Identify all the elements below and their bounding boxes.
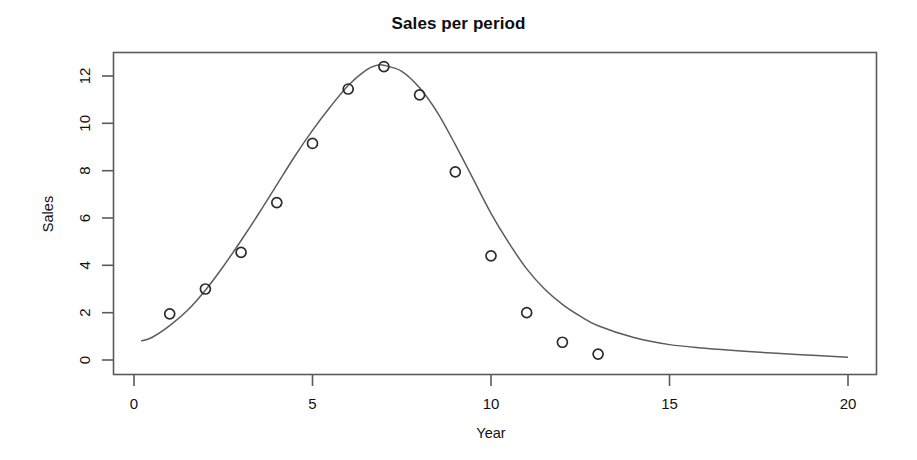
y-tick-label: 0 — [76, 356, 93, 364]
fitted-curve-line — [141, 65, 848, 357]
x-tick-label: 20 — [840, 395, 857, 412]
y-axis-ticks — [102, 76, 113, 360]
scatter-point — [486, 251, 496, 261]
chart-figure: Sales per period 0 5 10 15 20 — [0, 0, 917, 460]
scatter-point — [165, 309, 175, 319]
x-tick-label: 5 — [308, 395, 316, 412]
scatter-point — [593, 349, 603, 359]
x-tick-label: 0 — [130, 395, 138, 412]
x-axis-title: Year — [476, 425, 505, 441]
scatter-point — [272, 198, 282, 208]
plot-frame — [114, 53, 877, 375]
y-axis-tick-labels: 0 2 4 6 8 10 12 — [76, 68, 93, 365]
scatter-point — [450, 167, 460, 177]
y-tick-label: 4 — [76, 261, 93, 269]
y-tick-label: 12 — [76, 68, 93, 85]
y-tick-label: 10 — [76, 115, 93, 132]
scatter-point — [308, 138, 318, 148]
y-tick-label: 6 — [76, 214, 93, 222]
plot-area: 0 5 10 15 20 0 2 4 6 8 10 12 Year — [0, 0, 917, 460]
scatter-point — [415, 90, 425, 100]
y-tick-label: 8 — [76, 167, 93, 175]
x-axis-ticks — [134, 375, 848, 386]
scatter-point — [557, 337, 567, 347]
x-tick-label: 15 — [661, 395, 678, 412]
y-axis-title: Sales — [40, 196, 56, 232]
scatter-point — [522, 308, 532, 318]
x-axis-tick-labels: 0 5 10 15 20 — [130, 395, 857, 412]
x-tick-label: 10 — [483, 395, 500, 412]
scatter-point — [236, 247, 246, 257]
scatter-point-group — [165, 62, 603, 360]
y-tick-label: 2 — [76, 309, 93, 317]
